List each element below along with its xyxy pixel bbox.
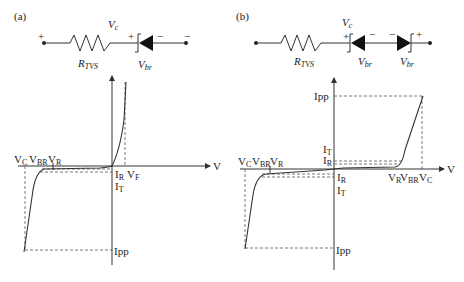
vr-neg-label: VR [270,155,284,169]
terminal-right [428,41,432,45]
vbr2-label: Vbr [400,55,415,69]
terminal-minus: − [184,30,190,42]
d2-plus: + [416,28,422,40]
tvs-diagram: (a) + + − − Vc RTVS Vbr [0,0,464,282]
vbr-neg-label: VBR [252,155,271,169]
vc-label: Vc [342,16,353,30]
ir-neg-label: IR [337,171,347,185]
ipp-top-label: Ipp [314,90,329,102]
vbr1-label: Vbr [358,55,373,69]
panel-a: (a) + + − − Vc RTVS Vbr [14,10,221,265]
vc-label: Vc [108,18,119,32]
zener-diode-1-icon [347,34,365,52]
panel-a-graph: V VC VBR VR IR VF IT Ipp [14,76,221,265]
d1-plus: + [343,30,349,42]
vc-label: VC [14,153,27,167]
vf-label: VF [127,168,140,182]
terminal-plus: + [38,30,44,42]
ipp-bottom-label: Ipp [336,244,351,256]
panel-a-label: (a) [14,10,27,23]
panel-b: (b) + − − + Vc RTVS Vbr Vbr [236,10,455,270]
panel-b-graph: V Ipp IT IR VC VBR VR IR IT VR VBR VC [238,78,455,270]
panel-b-circuit: + − − + Vc RTVS Vbr Vbr [254,16,432,69]
v-axis-label: V [213,160,221,172]
rtvs-label: RTVS [77,57,98,71]
vr-label: VR [48,153,62,167]
iv-curve [24,82,126,252]
it-neg-label: IT [337,184,346,198]
d2-minus: − [389,28,395,40]
vbr-label: Vbr [138,58,153,72]
zener-diode-icon [135,34,153,52]
vc-pos-label: VC [419,171,432,185]
diode-plus: + [128,30,134,42]
rtvs-label: RTVS [293,55,314,69]
resistor-icon [281,35,321,51]
v-axis-label: V [447,163,455,175]
it-label: IT [115,180,124,194]
ipp-label: Ipp [114,245,129,257]
resistor-icon [70,35,110,51]
vc-neg-label: VC [238,155,251,169]
panel-a-circuit: + + − − Vc RTVS Vbr [38,18,190,72]
d1-minus: − [369,28,375,40]
vbr-label: VBR [29,153,48,167]
panel-b-label: (b) [236,10,249,23]
diode-minus: − [157,30,163,42]
vbr-pos-label: VBR [400,171,419,185]
